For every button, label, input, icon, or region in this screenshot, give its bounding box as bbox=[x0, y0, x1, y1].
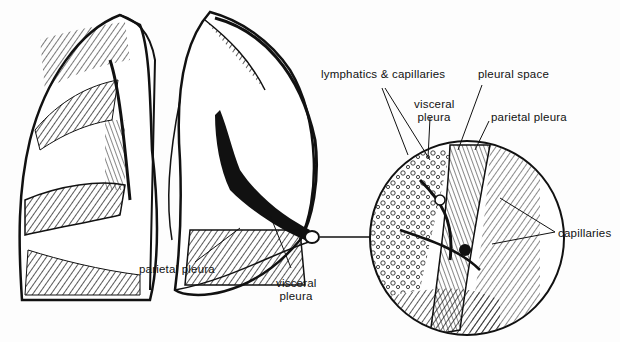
pleura-diagram: lymphatics & capillaries pleural space v… bbox=[0, 0, 620, 342]
label-parietal-pleura-top: parietal pleura bbox=[491, 111, 567, 124]
magnified-detail bbox=[370, 141, 564, 340]
left-lung bbox=[20, 15, 157, 300]
label-capillaries: capillaries bbox=[558, 227, 611, 240]
label-pleural-space: pleural space bbox=[478, 68, 549, 81]
label-parietal-pleura-bottom: parietal pleura bbox=[139, 263, 215, 276]
label-visceral-pleura-bottom: visceral pleura bbox=[276, 277, 316, 303]
label-visceral-pleura-top: visceral pleura bbox=[414, 98, 454, 124]
right-lung bbox=[169, 12, 372, 295]
label-lymphatics-capillaries: lymphatics & capillaries bbox=[321, 68, 445, 81]
